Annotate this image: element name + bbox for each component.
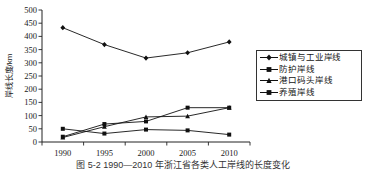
y-tick-label: 0 xyxy=(33,137,37,147)
x-tick-label: 2005 xyxy=(179,148,196,158)
square-marker-icon xyxy=(259,87,279,98)
legend-item: 防护岸线 xyxy=(259,64,361,76)
y-tick-label: 350 xyxy=(24,45,37,55)
legend-label: 港口码头岸线 xyxy=(279,76,332,85)
y-tick-label: 500 xyxy=(24,5,37,15)
diamond-marker-icon xyxy=(144,55,149,60)
square-marker-icon xyxy=(259,64,279,75)
diamond-marker-icon xyxy=(227,39,232,44)
square-marker-icon xyxy=(61,127,65,131)
figure-caption: 图 5-2 1990—2010 年浙江省各类人工岸线的长度变化 xyxy=(0,158,366,170)
legend-label: 防护岸线 xyxy=(279,65,315,74)
diamond-marker-icon xyxy=(102,42,107,47)
legend-item: 港口码头岸线 xyxy=(259,75,361,87)
y-tick-label: 100 xyxy=(24,111,37,121)
series-line-diamond xyxy=(63,28,229,58)
y-tick-label: 300 xyxy=(24,58,37,68)
figure-container: 0501001502002503003504004505001990199520… xyxy=(0,0,366,170)
diamond-marker-icon xyxy=(259,52,279,63)
legend-item: 养殖岸线 xyxy=(259,87,361,99)
legend-label: 城镇与工业岸线 xyxy=(279,53,341,62)
legend-label: 养殖岸线 xyxy=(279,88,315,97)
square-marker-icon xyxy=(144,128,148,132)
y-tick-label: 50 xyxy=(29,124,38,134)
x-tick-label: 2000 xyxy=(138,148,155,158)
square-marker-icon xyxy=(102,132,106,136)
triangle-marker-icon xyxy=(259,75,279,86)
x-tick-label: 1990 xyxy=(54,148,71,158)
square-marker-icon xyxy=(186,106,190,110)
chart-legend: 城镇与工业岸线 防护岸线 港口码头岸线 xyxy=(256,50,362,101)
y-tick-label: 450 xyxy=(24,18,37,28)
diamond-marker-icon xyxy=(60,25,65,30)
y-axis-label: 岸线长度/km xyxy=(4,53,14,98)
y-tick-label: 250 xyxy=(24,71,37,81)
y-tick-label: 400 xyxy=(24,31,37,41)
y-tick-label: 200 xyxy=(24,84,37,94)
square-marker-icon xyxy=(144,119,148,123)
y-tick-label: 150 xyxy=(24,97,37,107)
legend-item: 城镇与工业岸线 xyxy=(259,52,361,64)
square-marker-icon xyxy=(186,128,190,132)
square-marker-icon xyxy=(227,133,231,137)
x-tick-label: 1995 xyxy=(96,148,113,158)
diamond-marker-icon xyxy=(185,50,190,55)
x-tick-label: 2010 xyxy=(221,148,238,158)
